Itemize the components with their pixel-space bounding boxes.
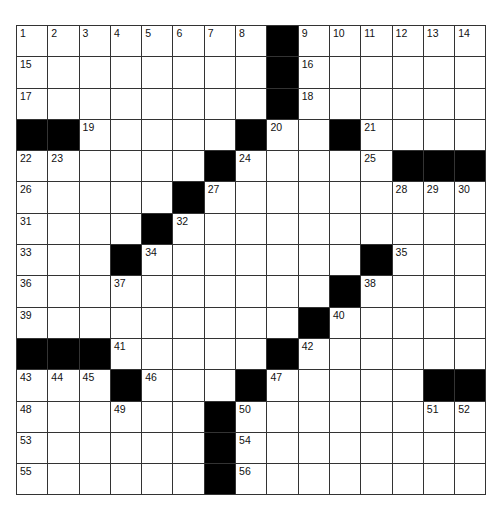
- grid-cell[interactable]: [455, 433, 485, 463]
- grid-cell[interactable]: 29: [424, 182, 454, 212]
- grid-cell[interactable]: [455, 464, 485, 494]
- grid-cell[interactable]: [80, 308, 110, 338]
- grid-cell[interactable]: [48, 245, 78, 275]
- grid-cell[interactable]: [173, 433, 203, 463]
- grid-cell[interactable]: 32: [173, 214, 203, 244]
- grid-cell[interactable]: [173, 57, 203, 87]
- grid-cell[interactable]: [299, 433, 329, 463]
- grid-cell[interactable]: [80, 276, 110, 306]
- grid-cell[interactable]: [236, 308, 266, 338]
- grid-cell[interactable]: [361, 89, 391, 119]
- grid-cell[interactable]: 5: [142, 26, 172, 56]
- grid-cell[interactable]: [267, 245, 297, 275]
- grid-cell[interactable]: 12: [393, 26, 423, 56]
- grid-cell[interactable]: [393, 308, 423, 338]
- grid-cell[interactable]: [111, 182, 141, 212]
- grid-cell[interactable]: [173, 339, 203, 369]
- grid-cell[interactable]: [111, 464, 141, 494]
- grid-cell[interactable]: 26: [17, 182, 47, 212]
- grid-cell[interactable]: [142, 402, 172, 432]
- grid-cell[interactable]: [267, 214, 297, 244]
- grid-cell[interactable]: 47: [267, 370, 297, 400]
- grid-cell[interactable]: [80, 245, 110, 275]
- grid-cell[interactable]: [142, 464, 172, 494]
- grid-cell[interactable]: [361, 433, 391, 463]
- grid-cell[interactable]: [111, 57, 141, 87]
- grid-cell[interactable]: [424, 89, 454, 119]
- grid-cell[interactable]: [111, 214, 141, 244]
- grid-cell[interactable]: [361, 182, 391, 212]
- grid-cell[interactable]: [330, 370, 360, 400]
- grid-cell[interactable]: [455, 214, 485, 244]
- grid-cell[interactable]: [142, 182, 172, 212]
- grid-cell[interactable]: 51: [424, 402, 454, 432]
- grid-cell[interactable]: 40: [330, 308, 360, 338]
- grid-cell[interactable]: 4: [111, 26, 141, 56]
- grid-cell[interactable]: [80, 182, 110, 212]
- grid-cell[interactable]: [80, 433, 110, 463]
- grid-cell[interactable]: 30: [455, 182, 485, 212]
- grid-cell[interactable]: [330, 339, 360, 369]
- grid-cell[interactable]: [111, 120, 141, 150]
- grid-cell[interactable]: [424, 214, 454, 244]
- grid-cell[interactable]: 31: [17, 214, 47, 244]
- grid-cell[interactable]: [330, 245, 360, 275]
- grid-cell[interactable]: [267, 433, 297, 463]
- grid-cell[interactable]: 39: [17, 308, 47, 338]
- grid-cell[interactable]: 53: [17, 433, 47, 463]
- grid-cell[interactable]: [205, 214, 235, 244]
- grid-cell[interactable]: 7: [205, 26, 235, 56]
- grid-cell[interactable]: [80, 89, 110, 119]
- grid-cell[interactable]: [267, 308, 297, 338]
- grid-cell[interactable]: [424, 308, 454, 338]
- grid-cell[interactable]: [48, 214, 78, 244]
- grid-cell[interactable]: [142, 120, 172, 150]
- grid-cell[interactable]: [393, 276, 423, 306]
- grid-cell[interactable]: 52: [455, 402, 485, 432]
- grid-cell[interactable]: 28: [393, 182, 423, 212]
- grid-cell[interactable]: [142, 339, 172, 369]
- grid-cell[interactable]: [205, 276, 235, 306]
- grid-cell[interactable]: 38: [361, 276, 391, 306]
- grid-cell[interactable]: 10: [330, 26, 360, 56]
- grid-cell[interactable]: [299, 151, 329, 181]
- grid-cell[interactable]: [330, 214, 360, 244]
- grid-cell[interactable]: 43: [17, 370, 47, 400]
- grid-cell[interactable]: [299, 370, 329, 400]
- grid-cell[interactable]: [455, 120, 485, 150]
- grid-cell[interactable]: [424, 433, 454, 463]
- grid-cell[interactable]: [455, 57, 485, 87]
- grid-cell[interactable]: 6: [173, 26, 203, 56]
- grid-cell[interactable]: 48: [17, 402, 47, 432]
- grid-cell[interactable]: [205, 339, 235, 369]
- grid-cell[interactable]: 19: [80, 120, 110, 150]
- grid-cell[interactable]: [173, 402, 203, 432]
- grid-cell[interactable]: [111, 151, 141, 181]
- grid-cell[interactable]: [236, 245, 266, 275]
- grid-cell[interactable]: [48, 182, 78, 212]
- grid-cell[interactable]: [361, 308, 391, 338]
- grid-cell[interactable]: 55: [17, 464, 47, 494]
- grid-cell[interactable]: [80, 402, 110, 432]
- grid-cell[interactable]: [393, 57, 423, 87]
- grid-cell[interactable]: [393, 339, 423, 369]
- grid-cell[interactable]: 27: [205, 182, 235, 212]
- grid-cell[interactable]: 13: [424, 26, 454, 56]
- grid-cell[interactable]: [142, 57, 172, 87]
- grid-cell[interactable]: 56: [236, 464, 266, 494]
- grid-cell[interactable]: 15: [17, 57, 47, 87]
- grid-cell[interactable]: 14: [455, 26, 485, 56]
- grid-cell[interactable]: [267, 182, 297, 212]
- grid-cell[interactable]: 37: [111, 276, 141, 306]
- grid-cell[interactable]: [205, 308, 235, 338]
- grid-cell[interactable]: 54: [236, 433, 266, 463]
- grid-cell[interactable]: [173, 308, 203, 338]
- grid-cell[interactable]: 46: [142, 370, 172, 400]
- grid-cell[interactable]: [236, 57, 266, 87]
- grid-cell[interactable]: [80, 151, 110, 181]
- grid-cell[interactable]: [330, 464, 360, 494]
- grid-cell[interactable]: [330, 402, 360, 432]
- grid-cell[interactable]: [267, 151, 297, 181]
- grid-cell[interactable]: [361, 214, 391, 244]
- grid-cell[interactable]: 44: [48, 370, 78, 400]
